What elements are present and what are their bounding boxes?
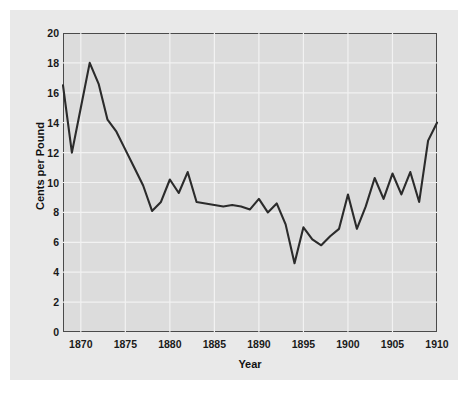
x-tick-label: 1900 [336,339,359,350]
x-tick-label: 1890 [247,339,270,350]
x-axis-tick-labels: 187018751880188518901895190019051910 [63,339,437,355]
y-tick-label: 20 [47,28,59,39]
y-tick-label: 16 [47,88,59,99]
y-tick-label: 10 [47,177,59,188]
y-tick-label: 18 [47,58,59,69]
y-tick-label: 8 [53,207,59,218]
x-tick-label: 1885 [203,339,226,350]
x-tick-label: 1870 [69,339,92,350]
y-axis-title: Cents per Pound [34,86,46,246]
y-tick-label: 14 [47,117,59,128]
y-tick-label: 2 [53,297,59,308]
x-tick-label: 1905 [381,339,404,350]
x-tick-label: 1895 [292,339,315,350]
y-tick-label: 4 [53,267,59,278]
plot-wrapper [63,33,437,332]
y-tick-label: 6 [53,237,59,248]
x-tick-label: 1880 [158,339,181,350]
x-axis-title: Year [63,358,437,370]
data-series-line [63,33,437,332]
y-tick-label: 0 [53,327,59,338]
x-tick-label: 1910 [425,339,448,350]
chart-figure: 02468101214161820 1870187518801885189018… [10,10,458,380]
x-tick-label: 1875 [114,339,137,350]
y-tick-label: 12 [47,147,59,158]
